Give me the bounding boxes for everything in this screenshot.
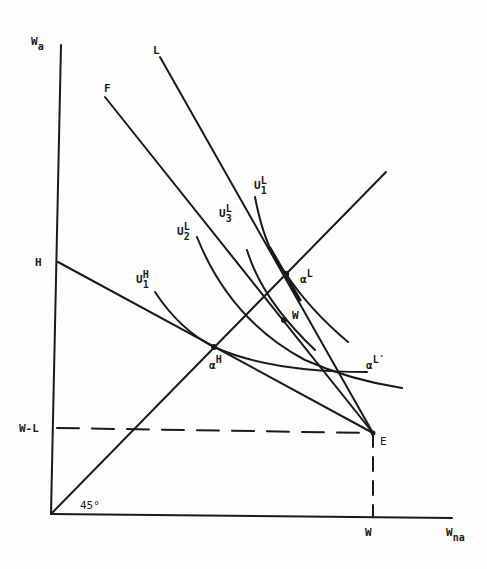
y-axis-label-sub: a [38, 41, 44, 52]
label-U1H-sub: 1 [143, 280, 149, 290]
label-alphaL: αL [300, 274, 313, 285]
label-U1H: UH1 [136, 270, 149, 290]
tick-W-minus-L: W-L [19, 423, 39, 434]
label-U1L: UL1 [254, 176, 267, 196]
label-U2L: UL2 [177, 222, 190, 242]
y-axis-label: Wa [31, 36, 44, 47]
label-U1H-base: U [136, 273, 143, 286]
x-axis-label: Wna [446, 527, 465, 538]
label-U3L: UL3 [219, 204, 232, 224]
curve-U1L [255, 197, 348, 342]
label-alphaH-sup: H [216, 354, 222, 365]
point-alphaL [283, 271, 289, 277]
diagram-svg [0, 0, 487, 569]
label-U2L-sub: 2 [184, 232, 190, 242]
label-F: F [104, 83, 111, 94]
x-axis-label-base: W [446, 526, 453, 539]
point-W [281, 317, 287, 323]
tick-H: H [35, 257, 42, 268]
angle-45-label: 45° [80, 500, 100, 511]
label-alphaL-base: α [300, 273, 307, 286]
point-E [371, 431, 376, 436]
label-U3L-base: U [219, 207, 226, 220]
dashed-WL-line [57, 428, 373, 433]
line-L-E [160, 57, 373, 433]
y-axis [51, 45, 61, 514]
label-U1L-base: U [254, 179, 261, 192]
point-alphaH [211, 344, 217, 350]
tick-W: W [365, 527, 372, 538]
label-alphaLprime-base: α [366, 359, 373, 372]
label-E: E [380, 436, 387, 447]
label-U1L-sub: 1 [261, 186, 267, 196]
label-U3L-sub: 3 [226, 214, 232, 224]
y-axis-label-base: W [31, 35, 38, 48]
x-axis-label-sub: na [453, 532, 465, 543]
label-U2L-base: U [177, 225, 184, 238]
diagram-canvas: Wa Wna H W-L W 45° L F UL1 UL3 UL2 UH1 α… [0, 0, 487, 569]
x-axis [51, 514, 452, 518]
label-L: L [153, 45, 160, 56]
label-alphaL-sup: L [307, 268, 313, 279]
label-W-point: W [292, 310, 299, 321]
line-F-E [105, 97, 373, 433]
label-alphaLprime-sup: L′ [373, 354, 385, 365]
label-alphaLprime: αL′ [366, 360, 385, 371]
label-alphaH: αH [209, 360, 222, 371]
label-alphaH-base: α [209, 359, 216, 372]
